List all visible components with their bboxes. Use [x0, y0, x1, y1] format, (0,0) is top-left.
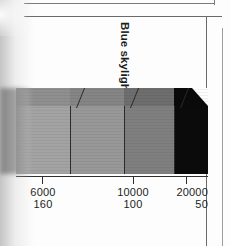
axis-label-group-20000: 20000 50: [144, 186, 208, 210]
axis-label-kelvin-20000: 20000: [144, 186, 208, 198]
page-rule-right-far: [222, 28, 223, 246]
scan-highlight-top: [0, 0, 26, 36]
page-rule-top-outer: [24, 3, 215, 4]
swatch-4: [174, 88, 208, 174]
swatch-1-bevel: [16, 88, 70, 107]
axis-label-kelvin-6000: 6000: [11, 186, 75, 198]
swatch-2-face: [70, 106, 124, 174]
page-rule-top-inner: [24, 16, 222, 17]
axis-tick-10000: [133, 177, 134, 184]
swatch-1: [16, 88, 70, 174]
axis-label-mired-50: 50: [144, 198, 208, 210]
axis-tick-6000: [42, 177, 43, 184]
colour-temperature-swatch-strip: [16, 88, 208, 174]
swatch-divider-2: [124, 106, 125, 174]
swatch-divider-1: [70, 106, 71, 174]
swatch-1-face: [16, 106, 70, 174]
swatch-3-face: [124, 106, 174, 174]
swatch-4-face: [174, 106, 208, 174]
axis-line: [16, 176, 208, 177]
axis-label-mired-160: 160: [11, 198, 75, 210]
axis-tick-20000: [186, 177, 187, 184]
page-rule-right-outer: [214, 0, 215, 5]
swatch-divider-3: [174, 106, 175, 174]
axis-label-group-6000: 6000 160: [11, 186, 75, 210]
figure-page: Blue skylight 60: [0, 0, 231, 246]
